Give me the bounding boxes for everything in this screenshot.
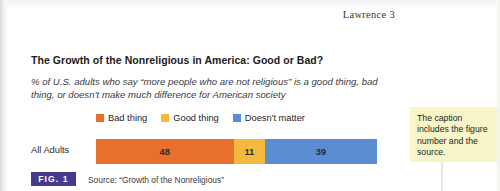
annotation-leader-line — [441, 162, 443, 191]
annotation-callout: The caption includes the figure number a… — [410, 107, 498, 162]
stacked-bar: 48 11 39 — [96, 139, 377, 164]
running-head: Lawrence 3 — [300, 9, 395, 20]
scanned-page: Lawrence 3 The Growth of the Nonreligiou… — [0, 0, 500, 191]
legend-item-doesnt-matter: Doesn't matter — [233, 113, 305, 123]
legend-swatch-icon — [233, 114, 241, 122]
legend-label: Doesn't matter — [245, 113, 305, 123]
figure-number-label: FIG. 1 — [38, 174, 68, 184]
bar-value-label: 11 — [244, 146, 254, 157]
legend-swatch-icon — [96, 114, 104, 122]
page-right-edge — [496, 0, 500, 191]
chart-legend: Bad thing Good thing Doesn't matter — [96, 113, 305, 123]
legend-item-good-thing: Good thing — [161, 113, 219, 123]
bar-value-label: 39 — [316, 146, 326, 157]
figure-source-caption: Source: “Growth of the Nonreligious” — [88, 175, 224, 185]
annotation-text: The caption includes the figure number a… — [417, 113, 492, 159]
legend-swatch-icon — [161, 114, 169, 122]
page-top-shading — [0, 0, 500, 10]
bar-segment-bad-thing: 48 — [96, 139, 234, 164]
legend-label: Good thing — [173, 113, 219, 123]
page-left-edge — [0, 0, 7, 191]
bar-category-label: All Adults — [31, 145, 69, 155]
figure-number-badge: FIG. 1 — [31, 172, 76, 186]
figure-title: The Growth of the Nonreligious in Americ… — [31, 54, 391, 66]
bar-segment-doesnt-matter: 39 — [265, 139, 377, 164]
bar-value-label: 48 — [160, 146, 170, 157]
bar-segment-good-thing: 11 — [234, 139, 266, 164]
figure-subtitle: % of U.S. adults who say “more people wh… — [31, 75, 403, 101]
legend-item-bad-thing: Bad thing — [96, 113, 147, 123]
legend-label: Bad thing — [108, 113, 147, 123]
